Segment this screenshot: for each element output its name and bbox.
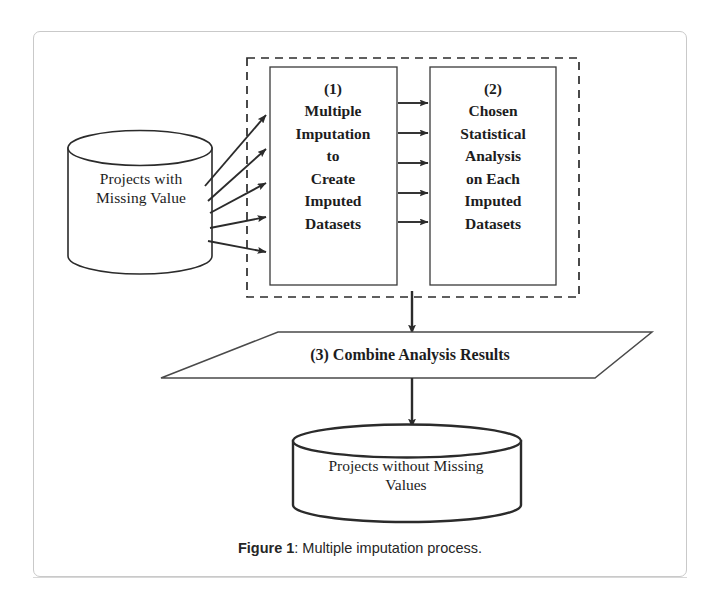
flowchart-graphic bbox=[0, 0, 714, 598]
result-datastore-shape bbox=[293, 425, 521, 523]
step-1-box bbox=[270, 67, 397, 285]
source-datastore-shape bbox=[68, 131, 212, 275]
figure-container: Projects with Missing Value (1) Multiple… bbox=[0, 0, 714, 598]
edge-step1-to-step2 bbox=[398, 103, 428, 222]
step-2-box bbox=[430, 67, 556, 285]
edge-source-to-step1 bbox=[205, 115, 266, 252]
caption-divider bbox=[33, 577, 687, 578]
figure-caption: Figure 1: Multiple imputation process. bbox=[33, 540, 687, 556]
figure-caption-text: : Multiple imputation process. bbox=[294, 540, 482, 556]
step-3-parallelogram bbox=[161, 332, 652, 378]
figure-caption-number: Figure 1 bbox=[238, 540, 294, 556]
